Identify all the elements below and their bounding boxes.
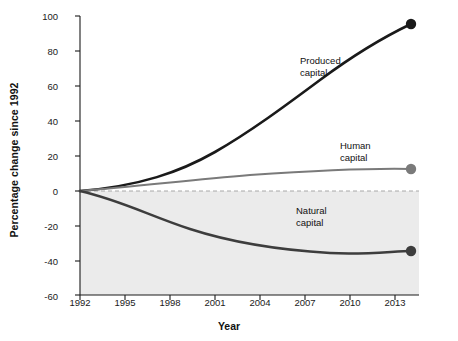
series-line-produced-capital <box>80 24 411 191</box>
chart-container: Percentage change since 1992 100 80 60 4… <box>0 0 458 341</box>
series-label-produced-capital: Produced capital <box>300 55 341 78</box>
plot-svg <box>0 0 458 341</box>
x-tick-marks <box>80 295 395 300</box>
series-endpoint-natural-capital <box>406 246 416 256</box>
series-endpoint-produced-capital <box>406 19 416 29</box>
y-tick-marks <box>75 16 80 295</box>
series-label-human-capital: Human capital <box>340 140 371 163</box>
series-line-human-capital <box>80 169 411 191</box>
series-endpoint-human-capital <box>406 164 416 174</box>
series-label-natural-capital: Natural capital <box>296 205 327 228</box>
